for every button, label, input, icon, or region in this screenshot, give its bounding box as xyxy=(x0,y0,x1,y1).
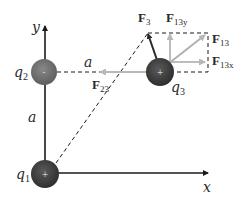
force-F13-arrow xyxy=(168,35,205,64)
label-F13x: F13x xyxy=(212,53,234,70)
label-F23-main: F xyxy=(92,77,100,92)
label-q3: q3 xyxy=(171,79,185,97)
label-q2-name: q xyxy=(14,64,23,80)
x-axis-label: x xyxy=(203,179,211,195)
label-F3: F3 xyxy=(138,10,151,27)
label-q2: q2 xyxy=(14,64,28,82)
label-F13y: F13y xyxy=(166,10,188,27)
label-F13y-main: F xyxy=(166,10,174,25)
charge-q2-sign: - xyxy=(43,68,46,77)
distance-label-vertical: a xyxy=(28,109,36,125)
label-F23: F23 xyxy=(92,77,109,94)
charge-q3: + xyxy=(146,58,174,86)
label-F13: F13 xyxy=(212,31,229,48)
charge-q1-sign: + xyxy=(42,170,49,179)
label-q3-sub: 3 xyxy=(180,86,185,97)
y-axis-label: y xyxy=(31,19,41,35)
charge-q1: + xyxy=(31,160,59,188)
label-F13-main: F xyxy=(212,31,220,46)
distance-label-horizontal: a xyxy=(84,54,92,70)
label-q1-sub: 1 xyxy=(25,173,30,184)
charge-q2: - xyxy=(31,59,57,85)
charge-q3-sign: + xyxy=(157,68,164,77)
electrostatic-force-diagram: - + + y x q2 q1 q3 a a F23 F3 F13y F13 F… xyxy=(0,0,245,204)
label-F23-sub: 23 xyxy=(100,84,110,94)
label-q1: q1 xyxy=(16,166,30,184)
label-F13x-main: F xyxy=(212,53,220,68)
label-q3-name: q xyxy=(171,79,180,95)
force-F3-arrow xyxy=(148,34,157,60)
label-F3-sub: 3 xyxy=(146,17,151,27)
label-F13y-sub: 13y xyxy=(174,17,188,27)
label-F3-main: F xyxy=(138,10,146,25)
label-F13-sub: 13 xyxy=(220,38,230,48)
label-F13x-sub: 13x xyxy=(220,60,234,70)
distance-q1-q3-dashed xyxy=(56,33,148,163)
label-q2-sub: 2 xyxy=(23,71,28,82)
label-q1-name: q xyxy=(16,166,25,182)
